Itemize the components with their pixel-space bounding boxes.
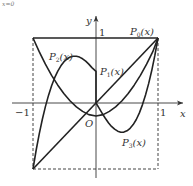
y-axis-label: y: [85, 15, 92, 26]
x-tick-1: 1: [160, 107, 166, 118]
svg-text:P3(x): P3(x): [121, 137, 146, 149]
x-axis-label: x: [180, 108, 186, 119]
svg-text:P0(x): P0(x): [129, 26, 154, 38]
y-tick-1: 1: [99, 27, 105, 38]
origin-label: O: [85, 118, 93, 129]
label-p3: P3(x): [121, 137, 146, 149]
svg-text:P1(x): P1(x): [99, 66, 124, 78]
label-p1: P1(x): [99, 66, 124, 78]
x-tick-neg1: −1: [15, 107, 30, 118]
label-p0: P0(x): [129, 26, 154, 38]
svg-text:P2(x): P2(x): [48, 51, 73, 63]
legendre-diagram: x=0 y x 1 1 −1 O P0(x) P1(x) P2(x) P3(x): [0, 0, 193, 186]
label-p2: P2(x): [48, 51, 73, 63]
top-fragment-text: x=0: [2, 0, 14, 7]
